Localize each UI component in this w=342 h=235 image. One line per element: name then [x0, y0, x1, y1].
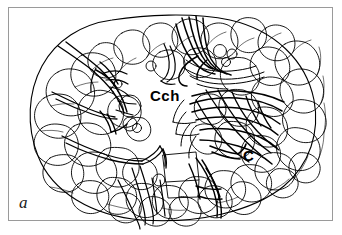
fiber-bundle-left-mid — [52, 92, 127, 134]
anatomical-line-drawing — [0, 0, 342, 235]
fiber-network-right-fine — [173, 100, 199, 158]
cell-outlines-bottom — [72, 153, 296, 219]
panel-letter: a — [19, 194, 28, 211]
figure-panel: Cch C a — [0, 0, 342, 235]
label-c: C — [243, 148, 254, 163]
fiber-bundle-top — [176, 16, 231, 86]
label-cch: Cch — [150, 88, 180, 103]
cell-outlines-right-lower-small — [266, 153, 320, 198]
